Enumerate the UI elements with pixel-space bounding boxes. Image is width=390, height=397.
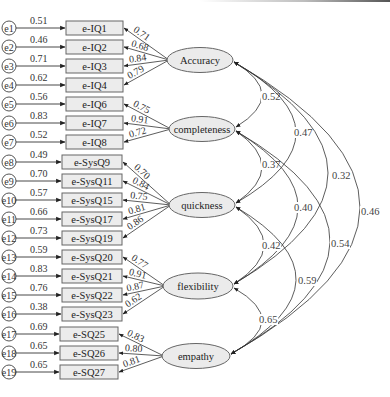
error-path-value: 0.66 [30,206,48,217]
observed-variable-label: e-SQ27 [73,367,105,378]
indicator-row: e10.51e-IQ1 [2,15,123,35]
latent-factor-label: flexibility [177,281,219,292]
error-term-label: e2 [4,42,13,53]
indicator-row: e130.59e-SysQ20 [2,244,122,264]
observed-variable-label: e-SysQ17 [71,214,112,225]
latent-factors: Accuracycompletenessquicknessflexibility… [162,48,235,369]
correlation-arc [234,62,262,127]
observed-variable-label: e-SysQ23 [71,309,112,320]
correlation-value: 0.46 [361,206,379,217]
indicator-row: e80.49e-SysQ9 [2,149,122,169]
factor-loading-value: 0.72 [128,124,148,139]
observed-variable-label: e-IQ2 [82,42,107,53]
error-path-value: 0.56 [30,91,48,102]
indicator-row: e30.71e-IQ3 [2,53,123,73]
correlation-arc [234,207,264,284]
latent-factor-label: completeness [174,124,231,135]
observed-variable-label: e-SQ26 [73,348,105,359]
error-path-value: 0.83 [30,110,48,121]
error-term-label: e7 [4,137,13,148]
error-path-value: 0.76 [30,282,48,293]
factor-loading-value: 0.81 [121,353,141,369]
error-term-label: e11 [2,214,16,225]
latent-factor-completeness: completeness [169,117,235,142]
error-path-value: 0.46 [30,34,48,45]
sem-diagram: 0.520.370.470.320.460.400.540.420.590.65… [0,0,390,397]
factor-loading-paths: 0.710.680.840.790.750.910.720.700.840.75… [119,24,171,372]
correlation-value: 0.54 [331,238,350,249]
error-term-label: e1 [4,23,13,34]
error-term-label: e8 [4,157,13,168]
observed-variable-label: e-IQ3 [82,61,107,72]
error-path-value: 0.69 [30,321,48,332]
indicator-row: e100.57e-SysQ15 [2,187,122,207]
error-term-label: e19 [2,367,16,378]
error-term-label: e16 [2,309,16,320]
indicator-row: e180.65e-SQ26 [2,340,118,360]
observed-variable-label: e-IQ6 [82,99,107,110]
observed-variable-label: e-SysQ21 [71,271,112,282]
latent-factor-flexibility: flexibility [163,273,233,299]
error-term-label: e13 [2,252,16,263]
error-path-value: 0.65 [30,340,48,351]
indicator-rows: e10.51e-IQ1e20.46e-IQ2e30.71e-IQ3e40.62e… [2,15,123,379]
indicator-row: e120.73e-SysQ19 [2,225,122,245]
error-path-value: 0.65 [30,359,48,370]
correlation-value: 0.42 [262,240,280,251]
observed-variable-label: e-SysQ19 [71,233,112,244]
observed-variable-label: e-SysQ22 [71,290,112,301]
error-term-label: e5 [4,99,13,110]
indicator-row: e150.76e-SysQ22 [2,282,122,302]
error-term-label: e15 [2,290,16,301]
observed-variable-label: e-SysQ9 [74,157,110,168]
error-path-value: 0.83 [30,263,48,274]
error-path-value: 0.52 [30,129,48,140]
correlation-arc [231,288,262,354]
factor-loading-value: 0.84 [128,52,147,65]
error-path-value: 0.71 [30,53,48,64]
factor-loading-value: 0.91 [130,112,149,125]
indicator-row: e170.69e-SQ25 [2,321,118,341]
latent-factor-label: Accuracy [180,55,221,66]
error-term-label: e4 [4,80,13,91]
observed-variable-label: e-IQ7 [82,118,107,129]
correlation-value: 0.65 [259,314,277,325]
error-term-label: e12 [2,233,16,244]
correlation-arc [234,62,296,203]
observed-variable-label: e-SQ25 [73,329,105,340]
error-term-label: e14 [2,271,16,282]
observed-variable-label: e-SysQ15 [71,195,112,206]
error-path-value: 0.57 [30,187,48,198]
latent-factor-quickness: quickness [169,193,235,218]
error-path-value: 0.38 [30,301,48,312]
error-path-value: 0.51 [30,15,48,26]
correlation-value: 0.52 [262,91,280,102]
observed-variable-label: e-SysQ11 [71,176,112,187]
observed-variable-label: e-SysQ20 [71,252,112,263]
indicator-row: e110.66e-SysQ17 [2,206,122,226]
correlation-value: 0.40 [294,202,312,213]
error-term-label: e9 [4,176,13,187]
error-path-value: 0.59 [30,244,48,255]
factor-loading-value: 0.75 [130,189,149,202]
indicator-row: e140.83e-SysQ21 [2,263,122,283]
error-path-value: 0.62 [30,72,48,83]
error-path-value: 0.70 [30,168,48,179]
error-term-label: e3 [4,61,13,72]
latent-factor-label: quickness [181,200,222,211]
error-path-value: 0.49 [30,149,48,160]
error-term-label: e18 [2,348,16,359]
factor-loading-value: 0.62 [123,291,144,310]
correlation-value: 0.32 [332,170,350,181]
correlation-value: 0.47 [294,127,312,138]
correlation-arc [231,207,296,354]
error-path-value: 0.73 [30,225,48,236]
correlation-value: 0.59 [298,275,316,286]
latent-factor-empathy: empathy [162,344,230,369]
latent-factor-label: empathy [178,351,215,362]
indicator-row: e70.52e-IQ8 [2,129,123,149]
indicator-row: e20.46e-IQ2 [2,34,123,54]
indicator-row: e60.83e-IQ7 [2,110,123,130]
correlation-arc [234,131,298,284]
error-term-label: e6 [4,118,13,129]
